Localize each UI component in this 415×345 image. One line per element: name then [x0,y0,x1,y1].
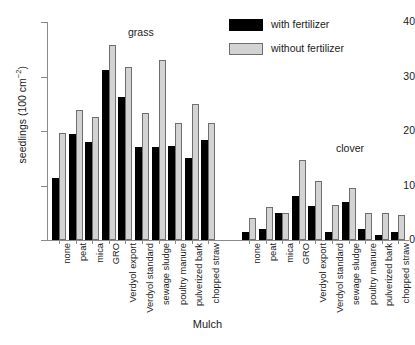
x-axis-tick-label: pulverized bark [385,243,394,306]
x-axis-tick-label: none [253,243,262,264]
bar-grass-chopped-straw-without-fertilizer [208,123,215,240]
bar-grass-none-with-fertilizer [52,178,59,240]
bar-clover-poultry-manure-with-fertilizer [358,229,365,240]
bar-grass-poultry-manure-with-fertilizer [168,146,175,240]
bar-clover-chopped-straw-without-fertilizer [398,215,405,240]
bar-clover-pulverized-bark-without-fertilizer [382,213,389,240]
legend-label-without-fertilizer: without fertilizer [271,42,344,54]
y-axis-title-close: ) [16,66,28,70]
x-axis-tick-label: Verdyol export [129,243,138,302]
bar-grass-peat-without-fertilizer [76,110,83,240]
x-axis-tick-label: mica [286,243,295,263]
bar-clover-sewage-sludge-without-fertilizer [349,188,356,240]
x-axis-tick [382,241,383,244]
x-axis-tick-label: peat [79,243,88,261]
group-label-clover: clover [336,142,364,154]
x-axis-tick-label: sewage sludge [352,243,361,305]
x-axis-tick [282,241,283,244]
bar-grass-Verdyol-standard-without-fertilizer [142,113,149,240]
x-axis-tick-label: sewage sludge [162,243,171,305]
x-axis-tick [332,241,333,244]
x-axis-tick-label: Verdyol standard [336,243,345,313]
bar-clover-Verdyol-standard-without-fertilizer [332,205,339,240]
x-axis-tick [365,241,366,244]
group-label-grass: grass [128,26,154,38]
x-axis-title: Mulch [0,318,415,330]
bar-clover-GRO-without-fertilizer [299,160,306,240]
x-axis-tick-label: GRO [302,243,311,264]
y-axis-title-main: seedlings (100 cm [16,78,28,163]
bar-grass-sewage-sludge-without-fertilizer [159,60,166,240]
x-axis-tick [315,241,316,244]
x-axis-tick [76,241,77,244]
x-axis-tick [142,241,143,244]
legend-item-without-fertilizer: without fertilizer [229,42,399,59]
bar-grass-pulverized-bark-with-fertilizer [185,158,192,240]
legend-item-with-fertilizer: with fertilizer [229,18,399,35]
bar-clover-none-with-fertilizer [242,232,249,240]
legend-label-with-fertilizer: with fertilizer [271,18,329,30]
x-axis-tick [192,241,193,244]
bar-clover-chopped-straw-with-fertilizer [391,232,398,240]
x-axis-tick-label: pulverized bark [195,243,204,306]
legend-swatch-with-fertilizer [229,19,263,31]
bar-clover-poultry-manure-without-fertilizer [365,213,372,240]
bar-grass-sewage-sludge-with-fertilizer [152,147,159,240]
y-axis-tick [41,240,47,241]
x-axis-tick-label: none [63,243,72,264]
x-axis-tick [349,241,350,244]
bar-grass-GRO-without-fertilizer [109,45,116,240]
x-axis-tick-label: peat [269,243,278,261]
x-axis-tick [109,241,110,244]
bar-grass-mica-without-fertilizer [92,117,99,240]
bar-clover-pulverized-bark-with-fertilizer [375,235,382,240]
x-axis-tick [92,241,93,244]
x-axis-tick-label: poultry manure [179,243,188,305]
x-axis-tick-label: chopped straw [212,243,221,303]
y-axis-title: seedlings (100 cm−2) [14,20,28,210]
x-axis-tick [59,241,60,244]
bar-grass-chopped-straw-with-fertilizer [201,140,208,240]
x-axis-tick [299,241,300,244]
y-axis-title-exponent: −2 [14,70,23,79]
bar-clover-Verdyol-export-without-fertilizer [315,181,322,240]
bar-clover-Verdyol-standard-with-fertilizer [325,232,332,240]
chart-figure: 010203040 seedlings (100 cm−2) grass clo… [0,0,415,345]
bar-clover-Verdyol-export-with-fertilizer [308,206,315,240]
x-axis-tick [159,241,160,244]
x-axis-tick-label: chopped straw [402,243,411,303]
bar-clover-mica-with-fertilizer [275,213,282,240]
x-axis-tick-label: Verdyol export [319,243,328,302]
bar-grass-Verdyol-export-with-fertilizer [118,97,125,240]
x-axis-tick [398,241,399,244]
x-axis-line [47,240,409,241]
bar-clover-peat-without-fertilizer [266,207,273,240]
x-axis-tick-label: Verdyol standard [146,243,155,313]
bar-grass-poultry-manure-without-fertilizer [175,123,182,240]
x-axis-tick [208,241,209,244]
bar-grass-Verdyol-export-without-fertilizer [125,67,132,240]
bar-clover-none-without-fertilizer [249,218,256,240]
cropped-caption-text [12,0,402,4]
x-axis-tick-label: GRO [112,243,121,264]
legend: with fertilizer without fertilizer [229,18,399,66]
x-axis-tick [249,241,250,244]
bar-grass-Verdyol-standard-with-fertilizer [135,147,142,240]
bar-grass-none-without-fertilizer [59,133,66,240]
x-axis-tick-label: mica [96,243,105,263]
x-axis-tick [125,241,126,244]
legend-swatch-without-fertilizer [229,43,263,55]
x-axis-tick [266,241,267,244]
bar-grass-mica-with-fertilizer [85,142,92,240]
x-axis-tick-label: poultry manure [369,243,378,305]
bar-grass-GRO-with-fertilizer [102,70,109,240]
x-axis-tick [175,241,176,244]
bar-clover-mica-without-fertilizer [282,213,289,240]
bar-grass-pulverized-bark-without-fertilizer [192,104,199,240]
bar-clover-peat-with-fertilizer [259,229,266,240]
bar-grass-peat-with-fertilizer [69,134,76,240]
bar-clover-GRO-with-fertilizer [292,196,299,240]
bar-clover-sewage-sludge-with-fertilizer [342,202,349,240]
